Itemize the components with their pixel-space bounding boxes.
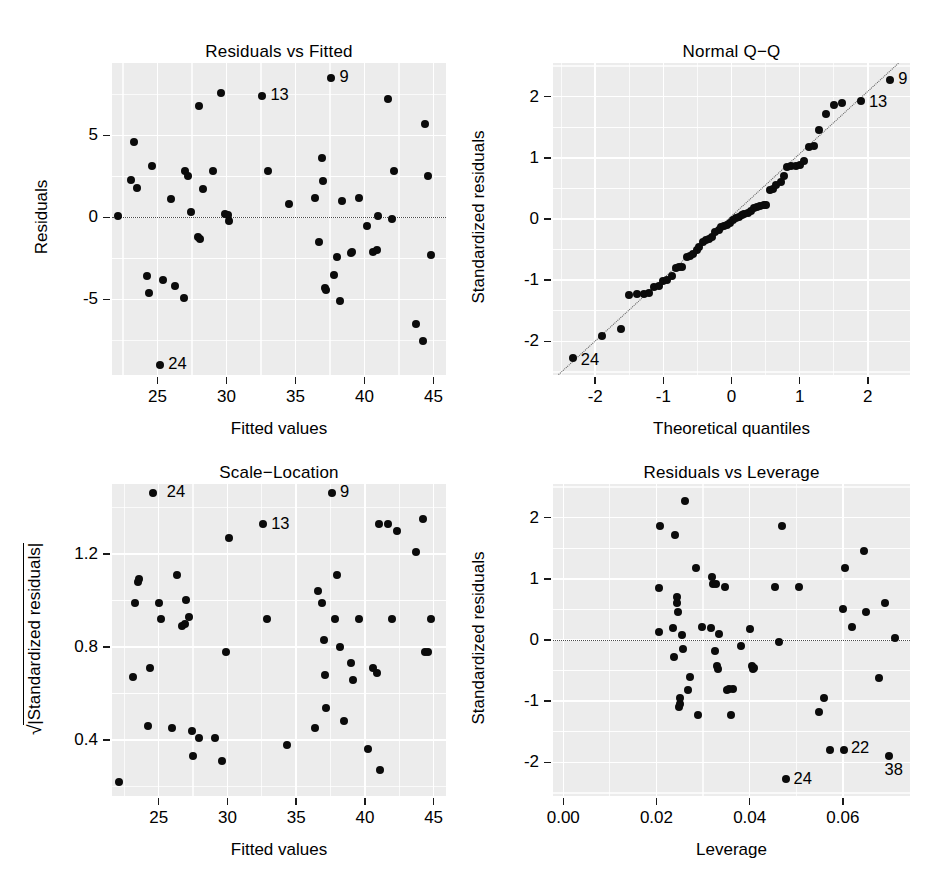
- data-point: [746, 625, 754, 633]
- x-axis-tick: [656, 798, 658, 805]
- data-point: [721, 583, 729, 591]
- x-axis-tick-label: 0.02: [640, 808, 673, 828]
- data-point: [674, 608, 682, 616]
- data-point: [727, 711, 735, 719]
- data-point: [885, 752, 893, 760]
- gridline-horizontal-minor: [553, 670, 910, 671]
- data-point: [698, 623, 706, 631]
- data-point: [795, 583, 803, 591]
- gridline-horizontal: [553, 517, 910, 519]
- x-axis-title: Leverage: [453, 840, 935, 860]
- x-axis-tick: [563, 798, 565, 805]
- data-point: [881, 599, 889, 607]
- data-point: [839, 605, 847, 613]
- data-point: [782, 775, 790, 783]
- data-point: [655, 584, 663, 592]
- data-point: [670, 653, 678, 661]
- data-point: [891, 634, 899, 642]
- gridline-horizontal: [553, 578, 910, 580]
- data-point: [673, 599, 681, 607]
- data-point: [840, 746, 848, 754]
- data-point: [771, 583, 779, 591]
- data-point: [737, 642, 745, 650]
- data-point: [679, 645, 687, 653]
- data-point: [678, 631, 686, 639]
- data-point: [711, 647, 719, 655]
- data-point: [655, 628, 663, 636]
- data-point: [750, 664, 758, 672]
- y-axis-tick: [544, 517, 551, 519]
- data-point-label: 22: [851, 739, 869, 756]
- panel-residuals-vs-leverage: Residuals vs Leverage2238240.000.020.040…: [0, 0, 935, 891]
- data-point: [686, 673, 694, 681]
- panel-title-residuals-vs-leverage: Residuals vs Leverage: [433, 463, 935, 483]
- y-axis-tick: [544, 762, 551, 764]
- data-point: [681, 497, 689, 505]
- data-point: [841, 564, 849, 572]
- data-point: [862, 608, 870, 616]
- data-point: [669, 624, 677, 632]
- y-axis-tick: [544, 578, 551, 580]
- gridline-horizontal: [553, 700, 910, 702]
- gridline-horizontal-minor: [553, 486, 910, 487]
- data-point: [715, 630, 723, 638]
- data-point: [826, 746, 834, 754]
- data-point: [671, 531, 679, 539]
- x-axis-tick: [842, 798, 844, 805]
- data-point: [694, 711, 702, 719]
- data-point: [875, 674, 883, 682]
- data-point-label: 24: [794, 770, 812, 787]
- x-axis-tick-label: 0.06: [826, 808, 859, 828]
- data-point: [707, 624, 715, 632]
- y-axis-tick: [544, 700, 551, 702]
- reference-line-zero: [553, 640, 910, 641]
- gridline-horizontal: [553, 762, 910, 764]
- x-axis-tick-label: 0.00: [547, 808, 580, 828]
- y-axis-title: Standardized residuals: [469, 488, 489, 788]
- data-point: [775, 638, 783, 646]
- data-point: [692, 564, 700, 572]
- gridline-horizontal-minor: [553, 548, 910, 549]
- gridline-horizontal-minor: [553, 609, 910, 610]
- y-axis-tick: [544, 639, 551, 641]
- x-axis-tick-label: 0.04: [733, 808, 766, 828]
- gridline-horizontal-minor: [553, 731, 910, 732]
- data-point-label: 38: [884, 761, 902, 778]
- data-point: [860, 547, 868, 555]
- gridline-horizontal-minor: [553, 792, 910, 793]
- data-point: [656, 522, 664, 530]
- data-point: [712, 580, 720, 588]
- data-point: [729, 685, 737, 693]
- diagnostic-plot-figure: Residuals vs Fitted91324253035404550-5Fi…: [0, 0, 935, 891]
- data-point: [815, 708, 823, 716]
- data-point: [778, 522, 786, 530]
- plot-area-residuals-vs-leverage: 223824: [553, 484, 910, 796]
- x-axis-tick: [749, 798, 751, 805]
- data-point: [684, 686, 692, 694]
- data-point: [848, 623, 856, 631]
- data-point: [714, 665, 722, 673]
